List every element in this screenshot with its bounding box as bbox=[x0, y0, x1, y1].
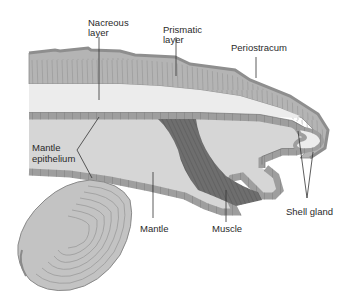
label-mantle: Mantle bbox=[140, 223, 169, 234]
label-mantle-epithelium-line1: Mantle bbox=[32, 142, 61, 153]
clam-shell-illustration bbox=[18, 180, 132, 291]
bivalve-mantle-diagram: Nacreous layer Prismatic layer Periostra… bbox=[0, 0, 356, 305]
label-nacreous-line2: layer bbox=[88, 27, 109, 38]
label-shell-gland: Shell gland bbox=[286, 206, 333, 217]
label-prismatic-line2: layer bbox=[163, 34, 184, 45]
label-muscle: Muscle bbox=[212, 223, 242, 234]
label-periostracum: Periostracum bbox=[231, 42, 287, 53]
label-mantle-epithelium-line2: epithelium bbox=[32, 153, 75, 164]
